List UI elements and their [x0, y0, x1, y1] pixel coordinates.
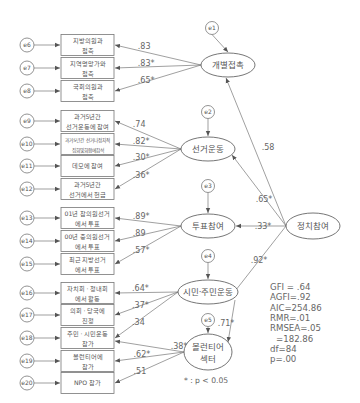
loading-coefficient: .62* — [134, 350, 151, 359]
loading-coefficient: .74 — [133, 120, 146, 129]
factor-label: 선거운동 — [192, 144, 224, 154]
loading-coefficient: .64* — [132, 284, 149, 293]
cross-path-coefficient: .38* — [171, 342, 188, 351]
fit-index: RMSEA=.05 — [270, 323, 321, 333]
indicator-label-line2: 집회및회합에참석 — [72, 147, 104, 154]
indicator-label-line2: 접촉 — [82, 47, 94, 55]
loading-arrow — [115, 65, 201, 68]
fit-index: RMR=.01 — [270, 313, 310, 323]
error-label: e2 — [204, 108, 212, 115]
indicator-label-line1: 주민 · 시민운동 — [67, 330, 109, 338]
error-label: e17 — [21, 311, 33, 318]
indicator-label-line1: 최근 지방선거 — [69, 256, 107, 264]
fit-index: AGFI=.92 — [270, 292, 311, 302]
indicator-label-line1: 과거5년간 선거나정치적 — [65, 137, 109, 144]
sem-diagram: 지방의원과접촉e6.83지역명망가와접촉e7.83*국회의원과접촉e8.65*과… — [0, 0, 360, 403]
loading-arrow — [115, 226, 181, 241]
loading-arrow — [115, 65, 201, 91]
indicator-label-line2: 에서 활동 — [75, 295, 101, 303]
fit-index: p=.00 — [270, 354, 296, 364]
error-label: e20 — [21, 379, 33, 386]
loading-coefficient: .83* — [138, 59, 155, 68]
indicator-label-line1: 국회의원과 — [73, 83, 103, 91]
error-arrow — [212, 35, 228, 53]
error-label: e18 — [21, 334, 33, 341]
loading-arrow — [115, 292, 178, 338]
structural-coefficient: .65* — [256, 195, 273, 204]
error-label: e15 — [21, 260, 33, 267]
indicator-label-line1: 의회 · 당국에 — [70, 307, 106, 315]
loading-arrow — [115, 45, 201, 65]
loading-coefficient: .57* — [133, 246, 150, 255]
error-label: e6 — [23, 41, 31, 48]
indicator-label-line2: 에서 투표 — [75, 266, 101, 274]
indicator-label-line2: 선거에서 헌금 — [69, 191, 107, 199]
structural-coefficient: .92* — [251, 256, 268, 265]
error-label: e14 — [21, 237, 33, 244]
indicator-label-line1: 볼런티어에 — [73, 353, 103, 361]
loading-coefficient: .30* — [133, 153, 150, 162]
error-label: e3 — [204, 182, 212, 189]
factor-label-line2: 섹터 — [200, 354, 216, 364]
indicator-label-line1: 지역명망가와 — [70, 60, 106, 68]
indicator-label-line1: 00년 중의원선거 — [65, 233, 111, 241]
fit-index: GFI = .64 — [270, 282, 310, 292]
error-label: e11 — [21, 162, 33, 169]
indicator-label-line1: 01년 참의원선거 — [65, 210, 111, 218]
loading-coefficient: .65* — [138, 76, 155, 85]
error-label: e12 — [21, 185, 33, 192]
indicator-label-line1: 과거5년간 — [74, 113, 102, 121]
indicator-label-line1: 지방의원과 — [73, 37, 103, 45]
second-order-label: 정치참여 — [297, 221, 329, 231]
factor-label: 시민·주민운동 — [183, 287, 234, 297]
factor-label: 투표참여 — [192, 221, 224, 231]
indicator-label-line1: 과거5년간 — [74, 181, 102, 189]
fit-index: df=84 — [270, 344, 297, 354]
error-label: e16 — [21, 289, 33, 296]
error-label: e8 — [23, 87, 31, 94]
error-label: e7 — [23, 64, 31, 71]
indicator-label-line2: 참가 — [82, 340, 94, 348]
loading-coefficient: .34 — [132, 318, 145, 327]
loading-coefficient: .82* — [133, 137, 150, 146]
loading-coefficient: .37* — [132, 301, 149, 310]
indicator-label-line2: 에서 투표 — [75, 220, 101, 228]
indicator-label-line2: 에서 투표 — [75, 243, 101, 251]
loading-coefficient: .83 — [138, 42, 151, 51]
indicator-label: 데모에 참여 — [72, 162, 104, 170]
error-label: e9 — [23, 117, 31, 124]
fit-index: AIC=254.86 — [270, 303, 322, 313]
loading-coefficient: .89 — [133, 229, 146, 238]
error-label: e5 — [204, 316, 212, 323]
indicator-label: NPO 참가 — [74, 379, 101, 387]
indicator-label-line2: 참가 — [82, 363, 94, 371]
error-label: e19 — [21, 357, 33, 364]
factor-label: 개별접촉 — [212, 60, 244, 70]
indicator-label-line1: 자치회 · 청내회 — [67, 285, 109, 293]
indicator-label-line2: 진정 — [82, 317, 94, 324]
structural-arrow — [232, 155, 286, 226]
fit-index: =182.86 — [276, 334, 313, 344]
loading-coefficient: .51 — [134, 367, 147, 376]
error-label: e1 — [208, 24, 216, 31]
structural-coefficient: .71* — [218, 319, 235, 328]
indicator-label-line2: 선거운동에 참여 — [66, 123, 110, 131]
loading-coefficient: .36* — [133, 171, 150, 180]
significance-note: * : p < 0.05 — [184, 376, 228, 385]
indicator-label-line2: 접촉 — [82, 70, 94, 78]
error-label: e13 — [21, 214, 33, 221]
loading-arrow — [115, 226, 181, 264]
error-label: e4 — [204, 252, 212, 259]
structural-coefficient: .58 — [262, 143, 275, 152]
error-label: e10 — [21, 140, 33, 147]
factor-label-line1: 볼런티어 — [192, 342, 224, 352]
loading-coefficient: .89* — [133, 212, 150, 221]
latent-factor-F5 — [184, 334, 232, 370]
indicator-label-line2: 접촉 — [82, 93, 94, 101]
structural-coefficient: .33* — [255, 222, 272, 231]
